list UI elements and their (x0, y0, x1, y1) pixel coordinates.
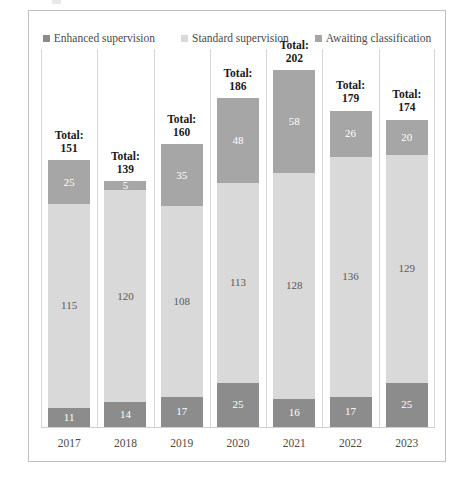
total-word: Total: (38, 129, 100, 142)
bar-segment-value-label: 115 (61, 300, 77, 311)
bar-segment-value-label: 120 (117, 291, 134, 302)
square-marker-icon (43, 35, 50, 42)
bar-total-label-2021: Total:202 (263, 39, 325, 65)
x-tick-label-2021: 2021 (266, 433, 322, 453)
bar-segment-value-label: 129 (399, 263, 416, 274)
bar-total-label-2022: Total:179 (320, 79, 382, 105)
x-axis-tick-labels: 2017201820192020202120222023 (41, 433, 435, 453)
bar-total-label-2020: Total:186 (207, 67, 269, 93)
stacked-bar-2020[interactable]: 4811325 (217, 98, 259, 427)
bar-segment-value-label: 20 (401, 132, 412, 143)
legend-item-awaiting-classification[interactable]: Awaiting classification (315, 33, 431, 45)
chart-figure-frame: Enhanced supervision Standard supervisio… (28, 10, 446, 462)
bar-segment-awaiting-2021[interactable]: 58 (273, 70, 315, 173)
bar-total-label-2019: Total:160 (151, 113, 213, 139)
total-word: Total: (207, 67, 269, 80)
stacked-bar-2017[interactable]: 2511511 (48, 160, 90, 427)
stacked-bar-2022[interactable]: 2613617 (330, 111, 372, 427)
bar-segment-value-label: 48 (232, 135, 243, 146)
bar-total-label-2023: Total:174 (376, 88, 438, 114)
bar-segment-awaiting-2020[interactable]: 48 (217, 98, 259, 183)
bar-segment-value-label: 25 (401, 399, 412, 410)
total-value: 202 (263, 52, 325, 65)
bar-segment-value-label: 17 (345, 406, 356, 417)
x-tick-label-2018: 2018 (97, 433, 153, 453)
bar-segment-value-label: 11 (64, 412, 75, 423)
bar-segment-awaiting-2018[interactable]: 5 (104, 181, 146, 190)
bar-total-label-2018: Total:139 (94, 150, 156, 176)
bar-segment-value-label: 25 (232, 399, 243, 410)
x-tick-label-2020: 2020 (210, 433, 266, 453)
total-value: 186 (207, 80, 269, 93)
total-word: Total: (151, 113, 213, 126)
bar-segment-value-label: 26 (345, 128, 356, 139)
total-word: Total: (376, 88, 438, 101)
stacked-bar-2018[interactable]: 512014 (104, 181, 146, 427)
bar-slot-2022: 2613617Total:179 (322, 49, 378, 427)
bar-segment-value-label: 128 (286, 280, 303, 291)
chart-legend: Enhanced supervision Standard supervisio… (29, 33, 445, 45)
bar-segment-enhanced-2021[interactable]: 16 (273, 399, 315, 427)
bar-segment-awaiting-2023[interactable]: 20 (386, 120, 428, 155)
bar-segment-enhanced-2017[interactable]: 11 (48, 408, 90, 427)
bar-segment-standard-2018[interactable]: 120 (104, 190, 146, 402)
bar-segment-standard-2019[interactable]: 108 (161, 206, 203, 397)
x-tick-label-2022: 2022 (322, 433, 378, 453)
bar-slot-2023: 2012925Total:174 (379, 49, 435, 427)
stacked-bar-2019[interactable]: 3510817 (161, 144, 203, 427)
bar-segment-awaiting-2019[interactable]: 35 (161, 144, 203, 206)
legend-item-enhanced-supervision[interactable]: Enhanced supervision (43, 33, 155, 45)
bar-segment-value-label: 5 (123, 181, 129, 190)
bar-segment-awaiting-2017[interactable]: 25 (48, 160, 90, 204)
total-value: 139 (94, 163, 156, 176)
bar-segment-value-label: 136 (342, 271, 359, 282)
bar-segment-awaiting-2022[interactable]: 26 (330, 111, 372, 157)
bar-total-label-2017: Total:151 (38, 129, 100, 155)
bar-segment-value-label: 58 (289, 116, 300, 127)
bar-segment-standard-2022[interactable]: 136 (330, 157, 372, 397)
bar-segment-enhanced-2018[interactable]: 14 (104, 402, 146, 427)
bar-segment-value-label: 25 (64, 177, 75, 188)
stacked-bar-2021[interactable]: 5812816 (273, 70, 315, 427)
total-value: 151 (38, 142, 100, 155)
x-tick-label-2019: 2019 (154, 433, 210, 453)
bar-slot-2019: 3510817Total:160 (154, 49, 210, 427)
square-marker-icon (181, 35, 188, 42)
bar-slot-2020: 4811325Total:186 (210, 49, 266, 427)
bar-slot-2017: 2511511Total:151 (41, 49, 97, 427)
x-tick-label-2017: 2017 (41, 433, 97, 453)
x-tick-label-2023: 2023 (379, 433, 435, 453)
total-value: 160 (151, 126, 213, 139)
bar-segment-enhanced-2022[interactable]: 17 (330, 397, 372, 427)
bar-segment-value-label: 14 (120, 409, 131, 420)
stacked-bar-group: 2511511Total:151512014Total:1393510817To… (41, 49, 435, 427)
bar-segment-enhanced-2020[interactable]: 25 (217, 383, 259, 427)
x-axis-line (41, 427, 435, 428)
bar-segment-enhanced-2023[interactable]: 25 (386, 383, 428, 427)
bar-slot-2021: 5812816Total:202 (266, 49, 322, 427)
bar-slot-2018: 512014Total:139 (97, 49, 153, 427)
bar-segment-standard-2017[interactable]: 115 (48, 204, 90, 407)
bar-segment-standard-2021[interactable]: 128 (273, 173, 315, 399)
bar-segment-value-label: 108 (173, 296, 190, 307)
bar-segment-standard-2023[interactable]: 129 (386, 155, 428, 383)
bar-segment-value-label: 17 (176, 406, 187, 417)
bar-segment-standard-2020[interactable]: 113 (217, 183, 259, 383)
legend-label-awaiting-classification: Awaiting classification (326, 33, 431, 45)
bar-segment-value-label: 113 (230, 277, 246, 288)
total-word: Total: (263, 39, 325, 52)
bar-segment-value-label: 16 (289, 407, 300, 418)
bar-segment-value-label: 35 (176, 170, 187, 181)
total-word: Total: (320, 79, 382, 92)
legend-label-enhanced-supervision: Enhanced supervision (54, 33, 155, 45)
bar-segment-enhanced-2019[interactable]: 17 (161, 397, 203, 427)
plot-area: 2511511Total:151512014Total:1393510817To… (41, 49, 435, 427)
total-value: 179 (320, 92, 382, 105)
top-edge-artifact (52, 0, 61, 4)
stacked-bar-2023[interactable]: 2012925 (386, 120, 428, 428)
total-value: 174 (376, 101, 438, 114)
total-word: Total: (94, 150, 156, 163)
